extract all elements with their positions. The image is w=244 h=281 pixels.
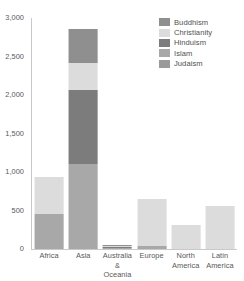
legend-label: Buddhism: [174, 18, 208, 27]
legend-label: Islam: [174, 49, 192, 58]
y-tick-label: 500: [0, 207, 24, 215]
y-tick-label: 3,000: [0, 14, 24, 22]
bar-stack: [34, 177, 64, 249]
bar-stack: [171, 225, 201, 249]
bar-stack: [205, 206, 235, 249]
x-tick-label-line1: North: [177, 251, 195, 260]
bar-segment[interactable]: [205, 206, 235, 249]
x-tick-label-line1: Australia: [103, 251, 132, 260]
x-tick-label: NorthAmerica: [169, 251, 203, 270]
y-tick-label: 1,000: [0, 168, 24, 176]
x-axis-line: [31, 249, 237, 250]
x-tick-label-line1: Latin: [212, 251, 228, 260]
legend-swatch-icon: [159, 29, 170, 37]
bar-segment[interactable]: [34, 214, 64, 249]
bar-group[interactable]: [34, 18, 64, 249]
y-tick-label: 2,000: [0, 91, 24, 99]
x-tick-label: Asia: [66, 251, 100, 261]
bar-segment[interactable]: [68, 164, 98, 249]
legend-item[interactable]: Buddhism: [159, 17, 243, 27]
legend-swatch-icon: [159, 49, 170, 57]
bar-segment[interactable]: [137, 199, 167, 246]
bar-group[interactable]: [68, 18, 98, 249]
bar-segment[interactable]: [68, 63, 98, 90]
x-tick-label-line1: Asia: [76, 251, 91, 260]
chart-legend: BuddhismChristianityHinduismIslamJudaism: [159, 17, 243, 69]
bar-stack: [137, 199, 167, 249]
legend-label: Hinduism: [174, 38, 206, 47]
y-tick-label: 2,500: [0, 53, 24, 61]
x-tick-label-line2: America: [169, 261, 203, 271]
x-tick-label-line2: & Oceania: [100, 261, 134, 280]
bar-segment[interactable]: [68, 90, 98, 163]
x-tick-label: Australia& Oceania: [100, 251, 134, 280]
legend-item[interactable]: Judaism: [159, 59, 243, 69]
y-axis: 3,0002,5002,0001,5001,0005000: [0, 0, 28, 281]
legend-item[interactable]: Islam: [159, 48, 243, 58]
bar-stack: [102, 245, 132, 249]
x-tick-label: Europe: [135, 251, 169, 261]
legend-swatch-icon: [159, 39, 170, 47]
bar-segment[interactable]: [171, 225, 201, 249]
bar-segment[interactable]: [137, 246, 167, 249]
bar-stack: [68, 29, 98, 249]
bar-group[interactable]: [102, 18, 132, 249]
legend-swatch-icon: [159, 60, 170, 68]
x-tick-label: Africa: [32, 251, 66, 261]
legend-swatch-icon: [159, 18, 170, 26]
legend-label: Christianity: [174, 28, 212, 37]
x-tick-label: LatinAmerica: [203, 251, 237, 270]
y-tick-label: 1,500: [0, 130, 24, 138]
x-tick-label-line2: America: [203, 261, 237, 271]
x-tick-label-line1: Africa: [39, 251, 58, 260]
legend-item[interactable]: Hinduism: [159, 38, 243, 48]
bar-segment[interactable]: [68, 29, 98, 64]
x-tick-label-line1: Europe: [140, 251, 164, 260]
y-tick-label: 0: [0, 245, 24, 253]
x-axis: AfricaAsiaAustralia& OceaniaEuropeNorthA…: [32, 251, 237, 281]
stacked-bar-chart: 3,0002,5002,0001,5001,0005000 AfricaAsia…: [0, 0, 244, 281]
legend-label: Judaism: [174, 59, 203, 68]
bar-segment[interactable]: [34, 177, 64, 214]
legend-item[interactable]: Christianity: [159, 27, 243, 37]
bar-segment[interactable]: [102, 248, 132, 249]
